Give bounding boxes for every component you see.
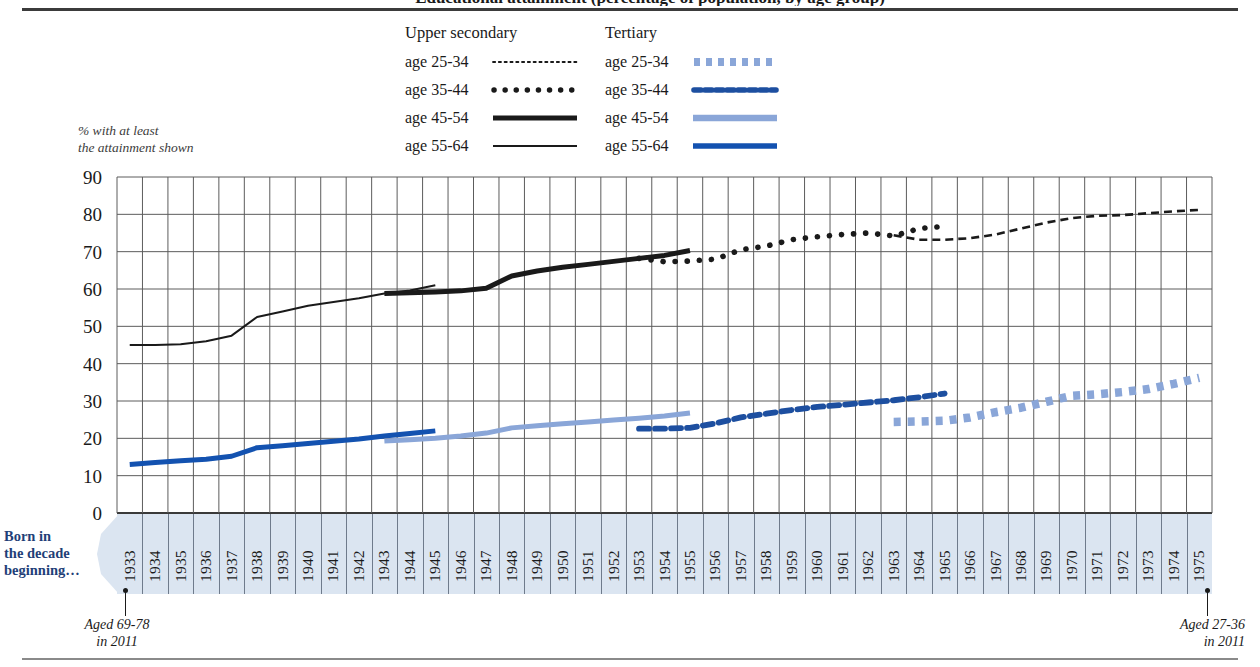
y-tick-label: 40: [83, 354, 102, 373]
series-line: [639, 226, 945, 261]
x-band-separator: [754, 514, 755, 594]
x-tick-label: 1941: [324, 518, 342, 582]
x-band-separator: [957, 514, 958, 594]
y-tick-label: 30: [83, 392, 102, 411]
x-band-separator: [1161, 514, 1162, 594]
x-band-separator: [193, 514, 194, 594]
x-tick-label: 1960: [808, 518, 826, 582]
x-tick-label: 1965: [936, 518, 954, 582]
series-line: [130, 285, 436, 345]
x-band-separator: [855, 514, 856, 594]
x-band-separator: [244, 514, 245, 594]
x-band-separator: [321, 514, 322, 594]
aged-left-line2: in 2011: [52, 633, 182, 650]
aged-left-caption: Aged 69-78 in 2011: [52, 616, 182, 650]
y-tick-label: 50: [83, 317, 102, 336]
y-tick-label: 10: [83, 466, 102, 485]
x-band-separator: [906, 514, 907, 594]
x-band-separator: [932, 514, 933, 594]
x-band-separator: [1187, 514, 1188, 594]
x-band-separator: [779, 514, 780, 594]
y-tick-label: 70: [83, 242, 102, 261]
x-tick-label: 1973: [1139, 518, 1157, 582]
x-band-separator: [830, 514, 831, 594]
x-band-separator: [1034, 514, 1035, 594]
x-band-separator: [1136, 514, 1137, 594]
x-tick-label: 1936: [197, 518, 215, 582]
aged-right-line2: in 2011: [1110, 633, 1245, 650]
x-tick-label: 1944: [401, 518, 419, 582]
x-tick-label: 1959: [783, 518, 801, 582]
right-leader-line: [1207, 592, 1208, 616]
x-band-separator: [142, 514, 143, 594]
x-tick-label: 1950: [554, 518, 572, 582]
x-tick-label: 1933: [121, 518, 139, 582]
x-band-separator: [601, 514, 602, 594]
x-band-separator: [499, 514, 500, 594]
x-band-separator: [983, 514, 984, 594]
x-tick-label: 1972: [1114, 518, 1132, 582]
series-line: [894, 210, 1200, 240]
x-tick-label: 1964: [910, 518, 928, 582]
series-line: [639, 394, 945, 429]
x-band-separator: [423, 514, 424, 594]
x-tick-label: 1951: [579, 518, 597, 582]
x-band-separator: [448, 514, 449, 594]
series-line: [384, 251, 690, 294]
x-tick-label: 1970: [1063, 518, 1081, 582]
left-leader-line: [125, 592, 126, 616]
x-tick-label: 1952: [605, 518, 623, 582]
bottom-rule: [22, 658, 1238, 660]
x-band-separator: [805, 514, 806, 594]
chart-page: Educational attainment (percentage of po…: [0, 0, 1260, 667]
x-band-separator: [270, 514, 271, 594]
x-tick-label: 1948: [503, 518, 521, 582]
x-tick-label: 1945: [426, 518, 444, 582]
y-tick-label: 90: [83, 168, 102, 187]
x-tick-label: 1958: [757, 518, 775, 582]
x-band-separator: [1085, 514, 1086, 594]
x-band-separator: [728, 514, 729, 594]
x-tick-label: 1946: [452, 518, 470, 582]
born-in-line1: Born in: [4, 528, 104, 545]
x-band-separator: [575, 514, 576, 594]
x-band-separator: [677, 514, 678, 594]
x-tick-label: 1942: [350, 518, 368, 582]
x-band-separator: [474, 514, 475, 594]
x-tick-label: 1971: [1088, 518, 1106, 582]
x-tick-label: 1947: [477, 518, 495, 582]
y-tick-label: 80: [83, 205, 102, 224]
x-band-separator: [626, 514, 627, 594]
x-tick-label: 1954: [656, 518, 674, 582]
series-line: [130, 431, 436, 465]
born-in-line2: the decade: [4, 545, 104, 562]
x-band-separator: [397, 514, 398, 594]
x-band-separator: [881, 514, 882, 594]
x-tick-label: 1940: [299, 518, 317, 582]
y-tick-label: 60: [83, 280, 102, 299]
x-tick-label: 1949: [528, 518, 546, 582]
x-tick-label: 1975: [1190, 518, 1208, 582]
x-tick-label: 1969: [1037, 518, 1055, 582]
x-band-separator: [295, 514, 296, 594]
series-line: [894, 378, 1200, 422]
x-tick-label: 1955: [681, 518, 699, 582]
x-band-separator: [168, 514, 169, 594]
x-tick-label: 1943: [375, 518, 393, 582]
x-band-separator: [1008, 514, 1009, 594]
born-in-caption: Born in the decade beginning…: [4, 528, 104, 579]
aged-left-line1: Aged 69-78: [52, 616, 182, 633]
x-band-separator: [652, 514, 653, 594]
x-band-separator: [524, 514, 525, 594]
x-tick-label: 1938: [248, 518, 266, 582]
x-tick-label: 1934: [146, 518, 164, 582]
x-tick-label: 1962: [859, 518, 877, 582]
x-tick-label: 1939: [274, 518, 292, 582]
born-in-line3: beginning…: [4, 562, 104, 579]
aged-right-caption: Aged 27-36 in 2011: [1110, 616, 1245, 650]
x-band-separator: [372, 514, 373, 594]
x-band-separator: [1110, 514, 1111, 594]
x-band-separator: [346, 514, 347, 594]
x-tick-label: 1956: [706, 518, 724, 582]
x-tick-label: 1957: [732, 518, 750, 582]
